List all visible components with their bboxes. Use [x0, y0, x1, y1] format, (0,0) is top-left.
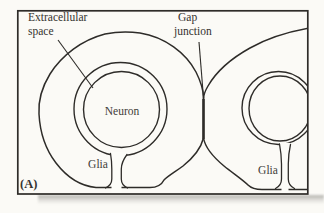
gap-junction-label: Gap junction [173, 11, 212, 38]
neuron-body-right [249, 76, 311, 141]
extracellular-space-ring-right [242, 72, 315, 145]
gap-junction-pointer-line [199, 42, 204, 98]
glia-label-right: Glia [258, 164, 278, 176]
glia-label-left: Glia [88, 158, 108, 170]
page-scan-shadow [38, 195, 324, 204]
panel-label: (A) [20, 177, 37, 191]
figure-page: Neuron Glia Glia Extracellular space Gap… [0, 0, 324, 213]
glia-neuron-diagram: Neuron Glia Glia Extracellular space Gap… [0, 0, 324, 213]
channel-right-cell-right-wall [288, 145, 294, 189]
extracellular-space-label: Extracellular space [28, 11, 90, 38]
neuron-label: Neuron [105, 105, 140, 117]
